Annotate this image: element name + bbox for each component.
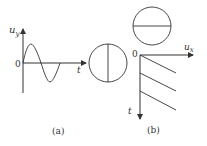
caption-a: (a) (52, 126, 64, 136)
caption-b: (b) (147, 125, 160, 135)
sawtooth-ramp-1 (140, 55, 176, 73)
ux-label: ux (184, 42, 194, 54)
oscilloscope-diagram: uy 0 t (a) 0 ux t (b) (0, 0, 207, 146)
sawtooth-ramp-3 (140, 91, 176, 110)
t-label: t (77, 65, 81, 75)
origin-label-b: 0 (132, 49, 138, 59)
uy-label: uy (9, 24, 20, 38)
sawtooth-ramp-2 (140, 73, 176, 91)
t-label-b: t (128, 106, 132, 116)
panel-a: uy 0 t (a) (9, 24, 127, 136)
origin-label: 0 (15, 59, 21, 69)
panel-b: 0 ux t (b) (128, 7, 194, 135)
